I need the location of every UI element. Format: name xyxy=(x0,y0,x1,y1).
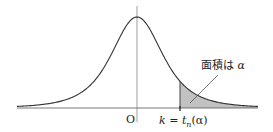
area-alpha-symbol: α xyxy=(238,59,245,72)
shaded-tail-area xyxy=(180,81,258,108)
area-label: 面積は α xyxy=(201,60,245,71)
origin-label: O xyxy=(126,114,135,125)
equals-sign: = xyxy=(166,114,182,127)
k-symbol: k xyxy=(159,114,166,127)
alpha-argument: (α) xyxy=(191,114,207,127)
k-value-label: k = tn(α) xyxy=(159,115,207,129)
area-label-text: 面積は xyxy=(201,59,234,72)
